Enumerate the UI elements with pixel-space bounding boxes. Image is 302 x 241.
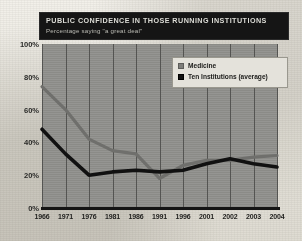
y-axis-labels: 100%80%60%40%20%0% [0,0,39,241]
legend-item-ten-institutions: Ten Institutions (average) [178,73,268,80]
y-tick-label: 80% [24,72,39,81]
legend-item-medicine: Medicine [178,62,216,69]
x-tick-label: 2002 [223,213,238,220]
x-tick-label: 1981 [105,213,120,220]
chart-figure: PUBLIC CONFIDENCE IN THOSE RUNNING INSTI… [0,0,302,241]
y-tick-label: 40% [24,138,39,147]
x-tick-label: 1986 [129,213,144,220]
legend: Medicine Ten Institutions (average) [172,57,288,88]
medicine-swatch-icon [178,63,184,69]
y-tick-label: 20% [24,171,39,180]
y-tick-label: 60% [24,105,39,114]
chart-subtitle: Percentage saying "a great deal" [46,27,142,34]
legend-label-medicine: Medicine [188,62,216,69]
x-tick-label: 1991 [152,213,167,220]
x-tick-label: 2004 [270,213,285,220]
x-tick-label: 1966 [35,213,50,220]
x-tick-label: 1996 [176,213,191,220]
x-tick-label: 2003 [246,213,261,220]
x-tick-label: 1976 [82,213,97,220]
x-tick-label: 2001 [199,213,214,220]
x-tick-label: 1971 [58,213,73,220]
x-axis-line [41,207,280,210]
line-ten-institutions [42,129,277,175]
y-tick-label: 100% [20,40,39,49]
legend-label-ten-institutions: Ten Institutions (average) [188,73,268,80]
ten-institutions-swatch-icon [178,74,184,80]
y-tick-label: 0% [28,204,39,213]
chart-title: PUBLIC CONFIDENCE IN THOSE RUNNING INSTI… [46,16,267,25]
title-banner: PUBLIC CONFIDENCE IN THOSE RUNNING INSTI… [40,13,288,39]
